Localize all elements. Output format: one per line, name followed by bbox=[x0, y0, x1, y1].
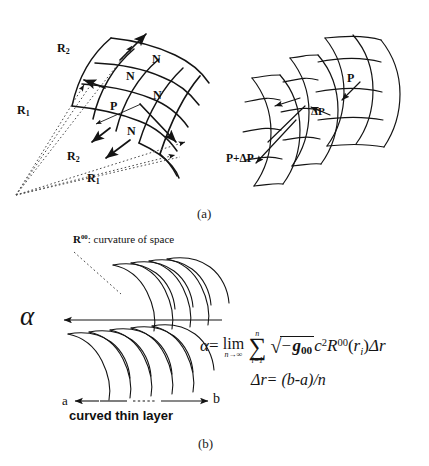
label-curved-thin-layer: curved thin layer bbox=[69, 409, 173, 422]
annotation-leader-line bbox=[74, 252, 121, 294]
curved-layer-lower-row bbox=[68, 325, 214, 400]
annotation-curvature-of-space: R00: curvature of space bbox=[73, 234, 174, 245]
figure-container: R2 R1 R2 R1 P N N N N P ΔP P+ΔP (a) bbox=[0, 0, 429, 466]
label-interval-end-b: b bbox=[213, 392, 220, 406]
equation-alpha-limit-sum: α= lim n→∞ n ∑ i=1 √− g00c2R00(ri)Δr bbox=[200, 330, 386, 365]
radicand: − g00 bbox=[280, 336, 314, 356]
caption-panel-b: (b) bbox=[198, 437, 213, 450]
summation-operator: n ∑ i=1 bbox=[248, 330, 266, 365]
limit-operator: lim n→∞ bbox=[223, 336, 244, 359]
label-alpha: α bbox=[20, 303, 34, 330]
equation-delta-r: Δr= (b-a)/n bbox=[251, 372, 326, 388]
label-interval-start-a: a bbox=[62, 394, 68, 407]
